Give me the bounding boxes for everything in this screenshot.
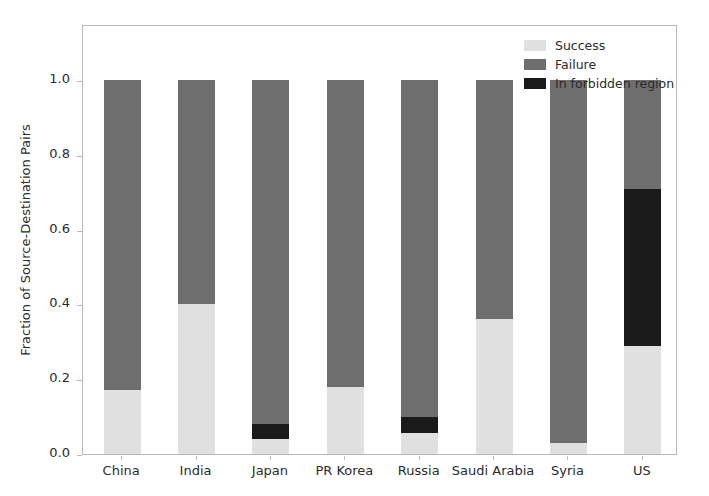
legend-item: Success (524, 36, 674, 55)
bar-segment-failure (178, 80, 215, 304)
y-axis-tick-label: 1.0 (49, 71, 70, 86)
legend-label: In forbidden region (555, 76, 674, 91)
bar-segment-success (104, 390, 141, 454)
bar-segment-success (327, 387, 364, 454)
y-axis-tick: 0.8 (0, 156, 82, 157)
y-axis-tick: 0.2 (0, 380, 82, 381)
bar-segment-in-forbidden-region (401, 417, 438, 434)
legend-item: In forbidden region (524, 74, 674, 93)
bar-japan (252, 24, 289, 454)
x-axis-tick-label: China (103, 463, 140, 478)
y-axis-tick-label: 0.2 (49, 370, 70, 385)
bar-segment-success (178, 304, 215, 454)
x-axis-tick-label: Syria (551, 463, 584, 478)
y-axis-tick-label: 0.6 (49, 221, 70, 236)
x-axis-tick: US (582, 456, 702, 486)
y-axis-tick: 0.6 (0, 231, 82, 232)
chart-figure: Fraction of Source-Destination Pairs 0.0… (0, 0, 709, 496)
x-axis-tick-label: US (633, 463, 651, 478)
x-axis-tick-label: India (180, 463, 212, 478)
bar-pr-korea (327, 24, 364, 454)
bar-segment-success (624, 346, 661, 454)
legend-label: Failure (555, 57, 596, 72)
y-axis-title-text: Fraction of Source-Destination Pairs (18, 124, 33, 356)
legend-item: Failure (524, 55, 674, 74)
x-axis-tick-mark (196, 456, 197, 460)
legend: SuccessFailureIn forbidden region (516, 31, 682, 99)
bar-segment-failure (327, 80, 364, 387)
bar-segment-success (476, 319, 513, 454)
legend-swatch (524, 59, 546, 70)
legend-swatch (524, 78, 546, 89)
bar-segment-failure (476, 80, 513, 319)
y-axis-tick: 1.0 (0, 81, 82, 82)
bar-segment-in-forbidden-region (624, 189, 661, 346)
bar-segment-success (401, 433, 438, 454)
bar-russia (401, 24, 438, 454)
x-axis-tick-mark (419, 456, 420, 460)
legend-label: Success (555, 38, 605, 53)
x-axis-tick-mark (344, 456, 345, 460)
x-axis-tick-mark (567, 456, 568, 460)
bar-segment-failure (401, 80, 438, 417)
bar-segment-in-forbidden-region (252, 424, 289, 439)
bar-segment-failure (104, 80, 141, 390)
bar-saudi-arabia (476, 24, 513, 454)
bar-segment-success (550, 443, 587, 454)
bar-segment-failure (252, 80, 289, 424)
y-axis-title: Fraction of Source-Destination Pairs (14, 25, 36, 455)
x-axis-tick-label: Japan (252, 463, 288, 478)
legend-swatch (524, 40, 546, 51)
y-axis-tick: 0.4 (0, 305, 82, 306)
y-axis-tick-label: 0.4 (49, 295, 70, 310)
x-axis-tick-mark (121, 456, 122, 460)
x-axis-tick-mark (493, 456, 494, 460)
bar-segment-success (252, 439, 289, 454)
x-axis-tick-mark (270, 456, 271, 460)
bar-india (178, 24, 215, 454)
y-axis-tick-label: 0.8 (49, 146, 70, 161)
bar-china (104, 24, 141, 454)
bar-segment-failure (550, 80, 587, 443)
x-axis-tick-mark (642, 456, 643, 460)
